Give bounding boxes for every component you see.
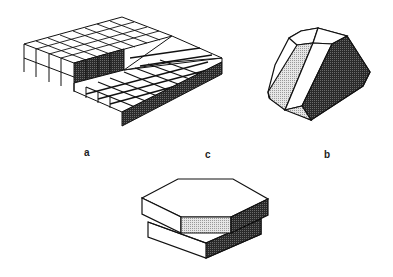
figure-canvas [0, 0, 393, 277]
panel-label-b: b [324, 149, 330, 160]
panel-b-faceted-crystal [268, 28, 370, 120]
panel-a-stepped-surface [24, 17, 222, 126]
panel-label-a: a [84, 147, 90, 158]
panel-label-c: c [205, 149, 211, 160]
panel-c-stacked-hexagons [142, 179, 268, 258]
